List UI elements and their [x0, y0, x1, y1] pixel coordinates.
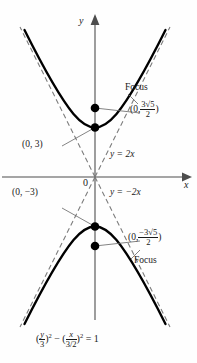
equation-caption: ( y 3 )2 − ( x 3/2 )2 = 1	[36, 330, 99, 350]
equation-fraction-1: y 3	[39, 330, 45, 350]
equation-exponent-2: 2	[80, 332, 83, 339]
graph-canvas	[0, 0, 197, 363]
asymptote-label-positive: y = 2x	[110, 150, 134, 160]
focus-coord-upper-close: )	[155, 104, 158, 114]
equation-fraction-2: x 3/2	[66, 330, 77, 350]
focus-point-lower	[91, 242, 100, 251]
equation-frac2-denominator: 3/2	[66, 340, 77, 349]
focus-coordinate-lower: (0, −3√5 2 )	[128, 228, 161, 248]
equation-frac1-numerator: y	[39, 330, 45, 339]
x-axis-label: x	[184, 180, 188, 190]
y-axis	[91, 14, 100, 320]
focus-label-lower: Focus	[134, 256, 157, 266]
focus-label-upper: Focus	[125, 83, 148, 93]
focus-coord-lower-open: (0,	[128, 232, 138, 242]
equation-equals-one: = 1	[86, 333, 99, 344]
focus-coord-upper-open: (0,	[130, 104, 140, 114]
origin-label: 0	[83, 178, 88, 188]
equation-minus: −	[54, 333, 60, 344]
focus-coord-lower-numerator: −3√5	[138, 228, 158, 237]
y-axis-label: y	[79, 16, 83, 26]
focus-coord-lower-fraction: −3√5 2	[138, 228, 158, 248]
equation-frac2-numerator: x	[66, 330, 77, 339]
vertex-point-upper	[91, 123, 100, 132]
focus-coord-upper-numerator: 3√5	[140, 100, 155, 109]
focus-coord-lower-denominator: 2	[138, 238, 158, 247]
focus-coord-upper-fraction: 3√5 2	[140, 100, 155, 120]
focus-point-upper	[91, 104, 100, 113]
equation-exponent-1: 2	[48, 332, 51, 339]
focus-coordinate-upper: (0, 3√5 2 )	[130, 100, 159, 120]
focus-coord-lower-close: )	[158, 232, 161, 242]
asymptote-label-negative: y = −2x	[110, 188, 141, 198]
focus-coord-upper-denominator: 2	[140, 110, 155, 119]
vertex-point-lower	[91, 222, 100, 231]
hyperbola-figure: y x 0 Focus (0, 3√5 2 ) (0, 3) y = 2x (0…	[0, 0, 197, 363]
vertex-label-lower: (0, −3)	[12, 188, 38, 198]
equation-frac1-denominator: 3	[39, 340, 45, 349]
vertex-label-upper: (0, 3)	[22, 140, 43, 150]
